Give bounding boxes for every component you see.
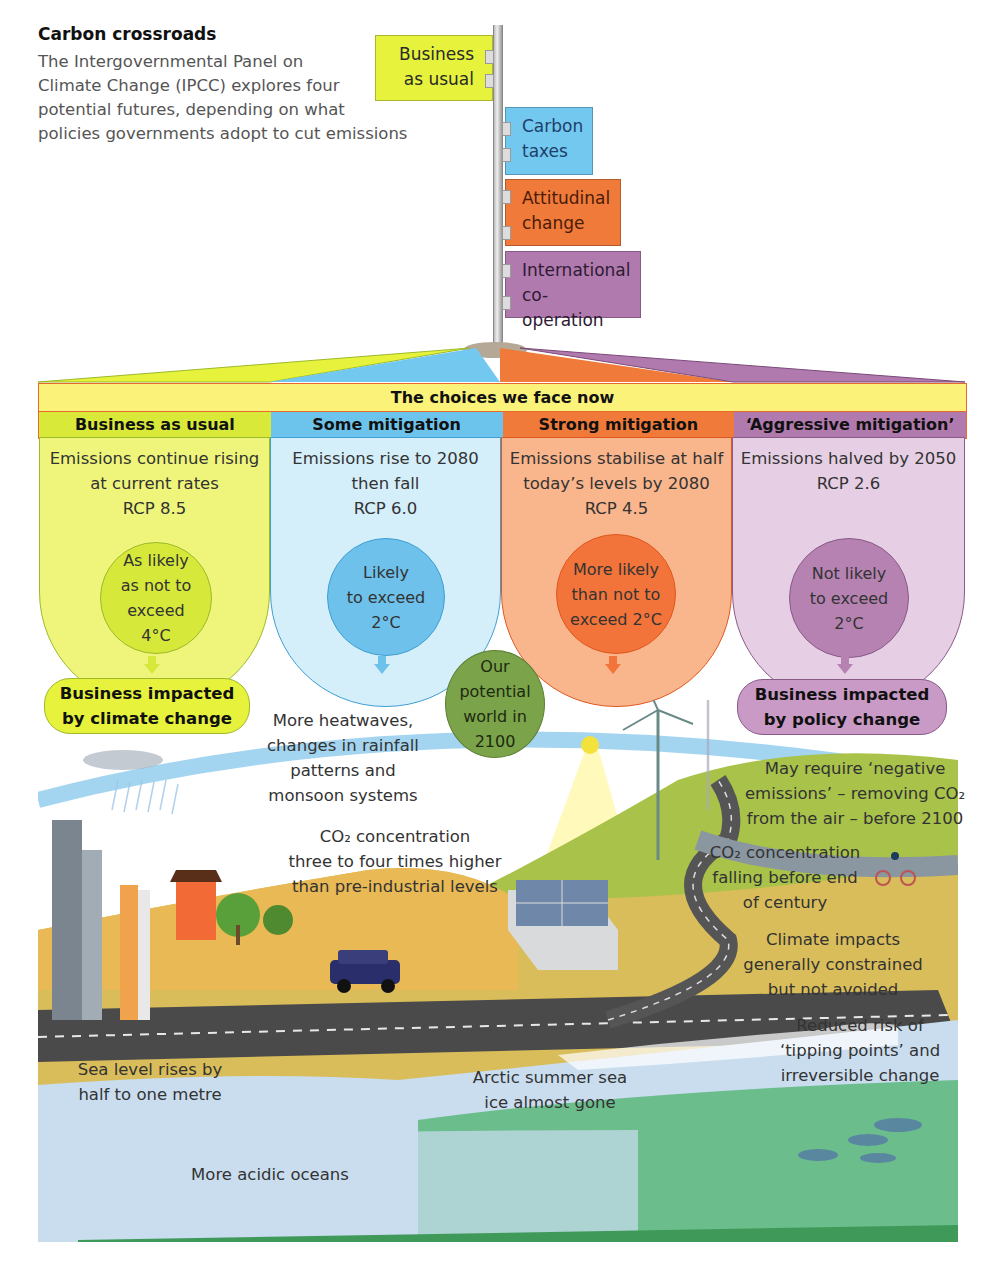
note-line: changes in rainfall (248, 733, 438, 758)
desc-line: Emissions rise to 2080 (271, 446, 500, 471)
desc-line: Emissions continue rising (40, 446, 269, 471)
likelihood-line: than not to (570, 582, 662, 607)
note-arctic: Arctic summer sea ice almost gone (460, 1065, 640, 1115)
rcp-label: RCP 4.5 (502, 496, 731, 521)
note-line: CO₂ concentration (260, 824, 530, 849)
sign-business-as-usual: Business as usual (375, 35, 493, 101)
sign-international-cooperation: International co-operation (505, 251, 641, 318)
likelihood-line: to exceed (810, 586, 889, 611)
rcp-label: RCP 2.6 (733, 471, 964, 496)
likelihood-line: 2°C (347, 610, 426, 635)
likelihood-line: exceed (121, 598, 192, 623)
likelihood-line: exceed 2°C (570, 607, 662, 632)
rcp-label: RCP 8.5 (40, 496, 269, 521)
choices-banner: The choices we face now (39, 384, 966, 412)
pill-line: by policy change (748, 707, 936, 732)
note-line: half to one metre (60, 1082, 240, 1107)
heading-aggressive-mitigation: ‘Aggressive mitigation’ (734, 412, 966, 438)
note-line: falling before end (690, 865, 880, 890)
down-arrow-icon (837, 664, 853, 674)
intro-line: policies governments adopt to cut emissi… (38, 122, 458, 146)
note-line: CO₂ concentration (690, 840, 880, 865)
rcp-label: RCP 6.0 (271, 496, 500, 521)
note-line: ‘tipping points’ and (760, 1038, 960, 1063)
sign-clip (502, 148, 511, 162)
note-line: patterns and (248, 758, 438, 783)
note-acidic-oceans: More acidic oceans (170, 1162, 370, 1187)
heading-business-as-usual: Business as usual (39, 412, 271, 438)
likelihood-circle: Likely to exceed 2°C (327, 538, 445, 656)
arrow-stem (841, 656, 849, 664)
outcome-climate-change-pill: Business impacted by climate change (44, 678, 250, 734)
note-line: More acidic oceans (170, 1162, 370, 1187)
badge-line: 2100 (459, 729, 530, 754)
note-line: from the air – before 2100 (735, 806, 975, 831)
pill-line: by climate change (55, 706, 239, 731)
likelihood-circle: Not likely to exceed 2°C (789, 538, 909, 658)
scenario-description: Emissions halved by 2050 RCP 2.6 (733, 446, 964, 496)
likelihood-line: More likely (570, 557, 662, 582)
scenario-headings: Business as usual Some mitigation Strong… (39, 412, 966, 438)
sign-label: change (522, 211, 608, 236)
note-line: three to four times higher (260, 849, 530, 874)
outcome-policy-change-pill: Business impacted by policy change (737, 679, 947, 735)
note-line: generally constrained (728, 952, 938, 977)
note-tipping-points: Reduced risk of ‘tipping points’ and irr… (760, 1013, 960, 1088)
sign-carbon-taxes: Carbon taxes (505, 107, 593, 175)
sign-clip (502, 122, 511, 136)
desc-line: at current rates (40, 471, 269, 496)
note-climate-impacts: Climate impacts generally constrained bu… (728, 927, 938, 1002)
down-arrow-icon (374, 664, 390, 674)
sign-label: as usual (388, 67, 474, 92)
note-line: Climate impacts (728, 927, 938, 952)
potential-world-2100-badge: Our potential world in 2100 (445, 650, 545, 758)
arrow-stem (148, 656, 156, 664)
note-line: monsoon systems (248, 783, 438, 808)
note-line: ice almost gone (460, 1090, 640, 1115)
sign-clip (502, 190, 511, 204)
sign-clip (502, 264, 511, 278)
likelihood-line: Not likely (810, 561, 889, 586)
note-line: Sea level rises by (60, 1057, 240, 1082)
pill-line: Business impacted (748, 682, 936, 707)
sign-label: co-operation (522, 283, 628, 333)
intro-line: potential futures, depending on what (38, 98, 458, 122)
likelihood-line: as not to (121, 573, 192, 598)
pill-line: Business impacted (55, 681, 239, 706)
heading-some-mitigation: Some mitigation (271, 412, 503, 438)
likelihood-circle: More likely than not to exceed 2°C (556, 534, 676, 654)
page-title: Carbon crossroads (38, 24, 216, 44)
sign-label: Attitudinal (522, 186, 608, 211)
badge-line: potential (459, 679, 530, 704)
choices-fan (0, 340, 987, 385)
sign-label: taxes (522, 139, 580, 164)
desc-line: today’s levels by 2080 (502, 471, 731, 496)
likelihood-line: Likely (347, 560, 426, 585)
sign-label: Business (388, 42, 474, 67)
arrow-stem (609, 656, 617, 664)
sign-clip (502, 226, 511, 240)
choices-panel: The choices we face now Business as usua… (38, 383, 967, 439)
note-line: Arctic summer sea (460, 1065, 640, 1090)
note-line: Reduced risk of (760, 1013, 960, 1038)
note-negative-emissions: May require ‘negative emissions’ – remov… (735, 756, 975, 831)
note-line: More heatwaves, (248, 708, 438, 733)
note-co2-falling: CO₂ concentration falling before end of … (690, 840, 880, 915)
likelihood-line: to exceed (347, 585, 426, 610)
down-arrow-icon (144, 664, 160, 674)
note-line: but not avoided (728, 977, 938, 1002)
sign-clip (485, 74, 494, 88)
badge-line: world in (459, 704, 530, 729)
scenario-description: Emissions stabilise at half today’s leve… (502, 446, 731, 521)
note-sea-level: Sea level rises by half to one metre (60, 1057, 240, 1107)
sign-clip (502, 296, 511, 310)
note-line: of century (690, 890, 880, 915)
desc-line: Emissions stabilise at half (502, 446, 731, 471)
scenario-description: Emissions rise to 2080 then fall RCP 6.0 (271, 446, 500, 521)
sign-clip (485, 50, 494, 64)
heading-strong-mitigation: Strong mitigation (503, 412, 735, 438)
likelihood-line: 4°C (121, 623, 192, 648)
note-heatwaves: More heatwaves, changes in rainfall patt… (248, 708, 438, 808)
sign-label: Carbon (522, 114, 580, 139)
desc-line: Emissions halved by 2050 (733, 446, 964, 471)
